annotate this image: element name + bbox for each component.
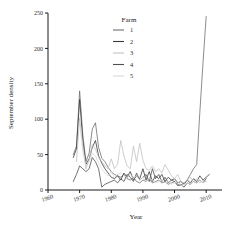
y-axis-title: September density <box>7 77 15 129</box>
y-tick-label: 150 <box>34 81 43 87</box>
y-axis: 050100150200250 <box>34 10 48 193</box>
x-axis-title: Year <box>130 213 144 221</box>
x-tick-label: 1960 <box>41 193 54 202</box>
x-tick-label: 1980 <box>104 193 117 202</box>
x-tick-label: 2010 <box>199 193 212 202</box>
x-tick-label: 2000 <box>167 193 180 202</box>
legend-label-farm-2[interactable]: 2 <box>130 38 133 45</box>
chart-container: 050100150200250 196019701980199020002010… <box>0 0 237 227</box>
x-tick-label: 1990 <box>136 193 149 202</box>
legend-label-farm-4[interactable]: 4 <box>130 61 134 68</box>
y-tick-label: 250 <box>34 10 43 16</box>
series-line-farm-1 <box>73 17 206 186</box>
september-density-line-chart: 050100150200250 196019701980199020002010… <box>0 0 237 227</box>
legend: Farm12345 <box>113 16 137 79</box>
y-tick-label: 50 <box>37 152 43 158</box>
series-line-farm-2 <box>73 99 209 184</box>
legend-label-farm-1[interactable]: 1 <box>130 26 133 33</box>
x-axis: 196019701980199020002010 <box>41 190 222 203</box>
y-tick-label: 100 <box>34 116 43 122</box>
legend-title: Farm <box>122 16 137 24</box>
legend-label-farm-5[interactable]: 5 <box>130 72 133 79</box>
series-lines <box>73 17 209 188</box>
y-tick-label: 200 <box>34 46 43 52</box>
legend-label-farm-3[interactable]: 3 <box>130 49 133 56</box>
x-tick-label: 1970 <box>72 193 85 202</box>
y-tick-label: 0 <box>40 187 43 193</box>
